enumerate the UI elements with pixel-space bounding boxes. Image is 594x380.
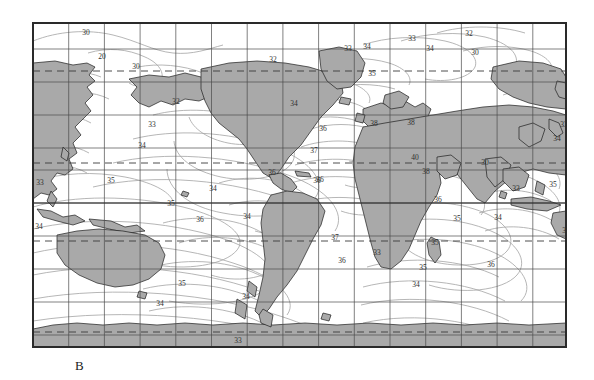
isohaline-value-label: 34 — [494, 214, 502, 222]
isohaline-value-label: 33 — [344, 45, 352, 53]
isohaline-value-label: 38 — [422, 168, 430, 176]
isohaline-value-label: 32 — [172, 98, 180, 106]
isohaline-value-label: 32 — [269, 56, 277, 64]
isohaline-value-label: 34 — [242, 293, 250, 301]
world-map-panel: 3020303233343334323035323433363838333437… — [32, 22, 567, 348]
isohaline-value-label: 36 — [487, 261, 495, 269]
isohaline-value-label: 40 — [411, 154, 419, 162]
isohaline-value-label: 35 — [549, 181, 557, 189]
isohaline-value-label: 30 — [481, 159, 489, 167]
isohaline-value-label: 30 — [82, 29, 90, 37]
isohaline-value-label: 33 — [512, 185, 520, 193]
land-british-isles — [355, 113, 365, 123]
isohaline-value-label: 35 — [368, 70, 376, 78]
isohaline-value-label: 38 — [407, 119, 415, 127]
isohaline-value-label: 33 — [560, 121, 567, 129]
isohaline-value-label: 33 — [148, 121, 156, 129]
isohaline-value-label: 36 — [338, 257, 346, 265]
isohaline-value-label: 34 — [290, 100, 298, 108]
isohaline-value-label: 34 — [156, 300, 164, 308]
isohaline-value-label: 34 — [412, 281, 420, 289]
isohaline-value-label: 30 — [471, 49, 479, 57]
isohaline-value-label: 36 — [316, 176, 324, 184]
isohaline-value-label: 33 — [408, 35, 416, 43]
isohaline-value-label: 35 — [167, 200, 175, 208]
isohaline-value-label: 35 — [562, 227, 567, 235]
isohaline-value-label: 35 — [419, 264, 427, 272]
isohaline-value-label: 37 — [310, 147, 318, 155]
isohaline-value-label: 33 — [373, 249, 381, 257]
isohaline-value-label: 34 — [35, 223, 43, 231]
figure-page: 3020303233343334323035323433363838333437… — [0, 0, 594, 380]
isohaline-value-label: 35 — [107, 177, 115, 185]
isohaline-value-label: 34 — [138, 142, 146, 150]
isohaline-value-label: 34 — [363, 43, 371, 51]
isohaline-value-label: 20 — [98, 53, 106, 61]
isohaline-value-label: 35 — [431, 239, 439, 247]
isohaline-value-label: 33 — [234, 337, 242, 345]
isohaline-value-label: 35 — [453, 215, 461, 223]
isohaline-value-label: 38 — [370, 120, 378, 128]
isohaline-value-label: 35 — [178, 280, 186, 288]
isohaline-value-label: 36 — [268, 169, 276, 177]
isohaline-value-label: 32 — [465, 30, 473, 38]
isohaline-value-label: 36 — [319, 125, 327, 133]
isohaline-value-label: 36 — [196, 216, 204, 224]
isohaline-value-label: 36 — [434, 196, 442, 204]
isohaline-value-label: 37 — [331, 234, 339, 242]
isohaline-value-label: 34 — [553, 135, 561, 143]
isohaline-value-label: 34 — [426, 45, 434, 53]
isohaline-value-label: 33 — [36, 179, 44, 187]
isohaline-value-label: 30 — [132, 63, 140, 71]
isohaline-value-label: 34 — [209, 185, 217, 193]
isohaline-value-label: 34 — [243, 213, 251, 221]
panel-label: B — [75, 358, 84, 374]
